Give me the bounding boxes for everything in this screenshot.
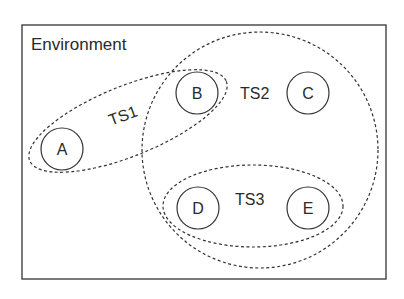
svg-text:C: C xyxy=(302,85,314,102)
group-ts1-label: TS1 xyxy=(106,103,139,129)
diagram-canvas: Environment TS1 TS2 TS3 A B C D E xyxy=(0,0,404,299)
group-ts2-label: TS2 xyxy=(240,85,269,102)
node-c: C xyxy=(287,72,329,114)
node-a: A xyxy=(41,128,83,170)
node-b: B xyxy=(176,72,218,114)
group-ts3-label: TS3 xyxy=(235,191,264,208)
svg-text:D: D xyxy=(192,200,204,217)
node-e: E xyxy=(287,187,329,229)
svg-text:A: A xyxy=(57,141,68,158)
environment-label: Environment xyxy=(31,35,127,54)
svg-text:B: B xyxy=(192,85,203,102)
group-ts2-boundary xyxy=(142,32,378,268)
node-d: D xyxy=(177,187,219,229)
svg-text:E: E xyxy=(303,200,314,217)
